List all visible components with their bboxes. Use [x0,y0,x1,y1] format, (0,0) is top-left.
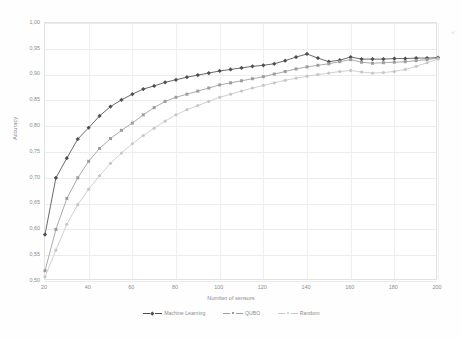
data-point-marker [294,55,298,59]
data-point-marker [43,232,47,236]
y-axis-label: Accuracy [12,117,18,140]
data-point-marker [141,87,145,91]
data-point-marker [273,81,276,84]
x-tick-label: 20 [41,284,47,290]
scan-artifact-icon: ↙ [451,28,456,35]
x-tick-label: 160 [345,284,354,290]
data-point-marker [65,197,68,200]
data-point-marker [130,92,134,96]
data-point-marker [109,162,112,165]
data-point-marker [316,64,319,67]
legend-label: QUBO [245,310,260,316]
legend-label: Random [300,310,320,316]
data-point-marker [425,61,428,64]
data-point-marker [404,60,407,63]
y-tick-label: 0,80 [0,122,40,128]
series-layer [45,23,438,281]
data-point-marker [381,57,385,61]
data-point-marker [371,71,374,74]
data-point-marker [185,108,188,111]
legend-marker-icon [287,312,290,315]
data-point-marker [142,134,145,137]
data-point-marker [403,56,407,60]
x-axis-label: Number of sensors [0,295,462,301]
data-point-marker [131,142,134,145]
legend-item-machine-learning[interactable]: Machine Learning [143,310,206,316]
x-tick-label: 120 [258,284,267,290]
data-point-marker [284,79,287,82]
data-point-marker [338,60,341,63]
data-point-marker [196,73,200,77]
y-tick-label: 0,60 [0,225,40,231]
y-tick-label: 0,50 [0,277,40,283]
data-point-marker [43,275,46,278]
x-tick-label: 40 [85,284,91,290]
legend-line-icon [236,313,243,314]
y-tick-label: 0,55 [0,251,40,257]
data-point-marker [87,188,90,191]
data-point-marker [426,58,429,61]
y-tick-label: 0,75 [0,148,40,154]
data-point-marker [196,104,199,107]
data-point-marker [153,127,156,130]
data-point-marker [207,100,210,103]
data-point-marker [273,73,276,76]
data-point-marker [251,77,254,80]
data-point-marker [360,61,363,64]
data-point-marker [251,86,254,89]
data-point-marker [98,147,101,150]
x-tick-label: 100 [214,284,223,290]
data-point-marker [54,176,58,180]
data-point-marker [207,87,210,90]
data-point-marker [415,59,418,62]
y-tick-label: 0,85 [0,96,40,102]
y-tick-label: 0,90 [0,70,40,76]
y-tick-label: 0,65 [0,199,40,205]
data-point-marker [229,93,232,96]
data-point-marker [131,122,134,125]
data-point-marker [284,70,287,73]
y-tick-label: 0,70 [0,174,40,180]
legend-line-icon [278,313,285,314]
data-point-marker [120,151,123,154]
data-point-marker [327,71,330,74]
data-point-marker [393,61,396,64]
data-point-marker [316,73,319,76]
x-tick-label: 200 [433,284,442,290]
legend-line-icon [223,313,230,314]
data-point-marker [228,67,232,71]
series-qubo [44,57,440,273]
data-point-marker [360,70,363,73]
data-point-marker [306,65,309,68]
plot-area [44,22,437,280]
legend-line-icon [143,313,150,314]
data-point-marker [262,75,265,78]
data-point-marker [327,62,330,65]
data-point-marker [305,75,308,78]
legend-item-random[interactable]: Random [278,310,319,316]
data-point-marker [174,78,178,82]
data-point-marker [349,58,352,61]
data-point-marker [295,67,298,70]
data-point-marker [196,90,199,93]
data-point-marker [239,66,243,70]
data-point-marker [142,113,145,116]
data-point-marker [229,81,232,84]
data-point-marker [54,228,57,231]
data-point-marker [272,62,276,66]
data-point-marker [153,106,156,109]
data-point-marker [262,84,265,87]
data-point-marker [185,75,189,79]
data-point-marker [44,269,47,272]
data-point-marker [349,69,352,72]
legend-marker-icon [150,311,154,315]
series-random [43,58,439,279]
data-point-marker [393,70,396,73]
data-point-marker [174,113,177,116]
data-point-marker [120,129,123,132]
data-point-marker [382,71,385,74]
data-point-marker [338,70,341,73]
data-point-marker [218,96,221,99]
legend-item-qubo[interactable]: QUBO [223,310,260,316]
chart-legend: Machine LearningQUBORandom [0,310,462,316]
